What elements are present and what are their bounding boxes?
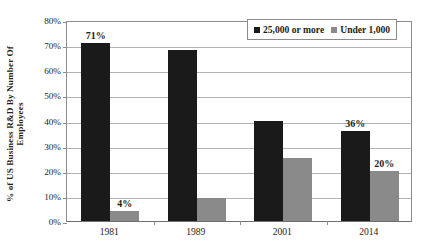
legend-label: Under 1,000 bbox=[340, 24, 390, 35]
bar-value-label: 36% bbox=[345, 118, 365, 129]
plot-area: 71%4%36%20% bbox=[66, 21, 412, 222]
bar-value-label: 71% bbox=[86, 30, 106, 41]
y-axis-tick-label: 70% bbox=[44, 41, 61, 51]
y-axis-tick-label: 30% bbox=[44, 142, 61, 152]
x-axis-tick bbox=[240, 221, 241, 225]
bar bbox=[341, 131, 370, 221]
legend-item-under-1000: Under 1,000 bbox=[331, 24, 390, 35]
bar bbox=[110, 211, 139, 221]
y-axis-title-line-2: Employees bbox=[15, 45, 25, 201]
bar bbox=[168, 50, 197, 221]
y-axis-title-line-1: % of US Business R&D By Number Of bbox=[5, 45, 15, 201]
x-axis-tick bbox=[154, 221, 155, 225]
bar-value-label: 20% bbox=[374, 158, 394, 169]
x-axis-tick-label: 1989 bbox=[186, 226, 205, 237]
y-axis-tick-label: 20% bbox=[44, 167, 61, 177]
bar-value-label: 4% bbox=[117, 198, 132, 209]
x-axis-tick-labels: 1981198920012014 bbox=[66, 226, 412, 246]
bars-layer: 71%4%36%20% bbox=[67, 22, 411, 221]
bar bbox=[370, 171, 399, 221]
x-axis-tick bbox=[327, 221, 328, 225]
y-axis-tick-label: 0% bbox=[49, 217, 61, 227]
y-axis-tick-label: 40% bbox=[44, 117, 61, 127]
y-axis-tick-label: 10% bbox=[44, 192, 61, 202]
bar bbox=[197, 198, 226, 221]
y-axis-tick-label: 50% bbox=[44, 91, 61, 101]
bar bbox=[81, 43, 110, 221]
legend-swatch-icon bbox=[331, 27, 337, 33]
chart-legend: 25,000 or more Under 1,000 bbox=[247, 19, 397, 40]
legend-item-25000-or-more: 25,000 or more bbox=[254, 24, 324, 35]
legend-swatch-icon bbox=[254, 27, 260, 33]
bar bbox=[254, 121, 283, 222]
y-axis-tick-labels: 0%10%20%30%40%50%60%70%80% bbox=[28, 0, 64, 247]
bar bbox=[283, 158, 312, 221]
x-axis-tick-label: 2014 bbox=[359, 226, 378, 237]
bar-chart: % of US Business R&D By Number Of Employ… bbox=[0, 0, 432, 247]
y-axis-tick-label: 80% bbox=[44, 16, 61, 26]
legend-label: 25,000 or more bbox=[263, 24, 324, 35]
y-axis-tick bbox=[63, 223, 67, 224]
x-axis-tick-label: 2001 bbox=[273, 226, 292, 237]
y-axis-tick-label: 60% bbox=[44, 66, 61, 76]
y-axis-title: % of US Business R&D By Number Of Employ… bbox=[0, 0, 30, 247]
x-axis-tick-label: 1981 bbox=[100, 226, 119, 237]
